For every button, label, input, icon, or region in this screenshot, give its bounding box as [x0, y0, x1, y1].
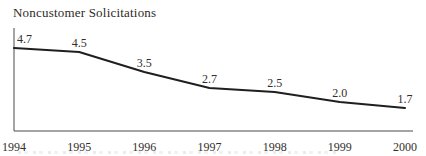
- x-tick-label: 2000: [393, 140, 417, 154]
- cropped-text-remnant: [18, 151, 338, 154]
- value-label: 2.7: [202, 72, 217, 86]
- line-chart-svg: 4.74.53.52.72.52.01.71994199519961997199…: [0, 0, 426, 156]
- value-label: 4.5: [72, 36, 87, 50]
- value-label: 2.0: [332, 86, 347, 100]
- value-label: 3.5: [137, 56, 152, 70]
- noncustomer-solicitations-chart: Noncustomer Solicitations 4.74.53.52.72.…: [0, 0, 426, 156]
- value-label: 1.7: [398, 92, 413, 106]
- value-label: 4.7: [17, 32, 32, 46]
- value-label: 2.5: [267, 76, 282, 90]
